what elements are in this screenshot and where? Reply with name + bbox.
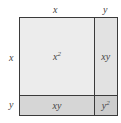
- region-x-squared: x2: [20, 18, 94, 95]
- area-square: x2 xy xy y2: [19, 17, 118, 116]
- top-label-x: x: [53, 5, 57, 15]
- region-y-squared-label: y2: [102, 100, 110, 111]
- region-y-squared: y2: [94, 95, 117, 115]
- side-label-y: y: [9, 100, 13, 110]
- region-xy-bottom: xy: [20, 95, 94, 115]
- top-label-y: y: [103, 5, 107, 15]
- region-x-squared-label: x2: [53, 51, 61, 62]
- region-xy-right-label: xy: [101, 51, 110, 62]
- side-label-x: x: [9, 53, 13, 63]
- region-xy-bottom-label: xy: [53, 100, 62, 111]
- region-xy-right: xy: [94, 18, 117, 95]
